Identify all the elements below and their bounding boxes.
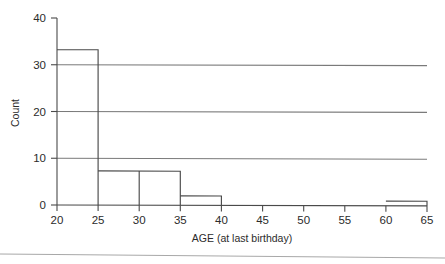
x-axis-title: AGE (at last birthday) [192,232,292,244]
gridline-20 [57,112,427,113]
x-tick-labels: 20 25 30 35 40 45 50 55 60 65 [51,214,434,226]
gridline-10 [57,158,427,159]
x-tick-label-65: 65 [421,214,434,226]
x-tick-label-25: 25 [92,214,105,226]
x-tick-label-60: 60 [380,214,393,226]
y-tick-label-40: 40 [33,12,46,24]
y-tick-label-30: 30 [33,59,46,71]
y-tick-labels: 40 30 20 10 0 [33,12,46,211]
x-axis-spine [57,205,427,206]
x-tick-label-40: 40 [215,214,228,226]
x-tick-label-30: 30 [133,214,146,226]
y-tick-label-20: 20 [33,106,46,118]
histogram-bar-60-65 [386,201,427,206]
histogram-bar-35-40 [180,196,221,206]
y-tickmarks [51,18,57,205]
histogram-bars [57,50,427,206]
page-bottom-rule [0,254,445,258]
x-tick-label-45: 45 [256,214,269,226]
x-tick-label-20: 20 [51,214,64,226]
y-tick-label-10: 10 [33,152,46,164]
histogram-bar-20-25 [57,50,98,205]
x-tick-label-35: 35 [174,214,187,226]
y-axis-title: Count [9,99,21,127]
gridline-30 [57,65,427,66]
chart-canvas: 40 30 20 10 0 20 25 30 35 40 45 [0,0,445,264]
y-tick-label-0: 0 [40,199,46,211]
x-tick-label-55: 55 [338,214,351,226]
x-tick-label-50: 50 [297,214,310,226]
gridlines [57,65,427,159]
histogram-figure: 40 30 20 10 0 20 25 30 35 40 45 [0,0,445,264]
